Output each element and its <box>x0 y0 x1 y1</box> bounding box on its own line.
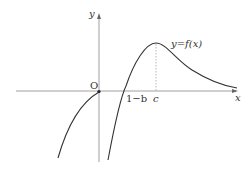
zero-crossing-label: 1−b <box>126 93 147 104</box>
function-graph: y x O 1−b c y=f(x) <box>0 0 245 172</box>
curve-label: y=f(x) <box>170 38 202 49</box>
curve-left-branch <box>58 92 99 158</box>
x-axis-label: x <box>235 92 241 103</box>
y-axis-arrow-icon <box>97 13 101 19</box>
origin-label: O <box>90 80 98 91</box>
y-axis-label: y <box>88 8 95 19</box>
peak-x-label: c <box>153 93 159 104</box>
